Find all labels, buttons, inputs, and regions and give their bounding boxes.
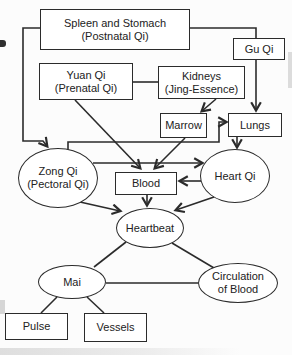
- edge-heartqi-to-heartbeat: [176, 197, 214, 210]
- node-label: (Postnatal Qi): [81, 30, 148, 43]
- node-spleen-stomach: Spleen and Stomach (Postnatal Qi): [40, 9, 190, 50]
- edge-mai-to-pulse: [41, 297, 57, 313]
- node-label: Blood: [132, 177, 160, 190]
- node-label: Kidneys: [182, 70, 221, 83]
- node-yuan-qi: Yuan Qi (Prenatal Qi): [39, 63, 133, 100]
- node-mai: Mai: [38, 265, 106, 299]
- node-zong-qi: Zong Qi (Pectoral Qi): [18, 148, 98, 208]
- node-heartbeat: Heartbeat: [116, 208, 184, 248]
- node-circulation-of-blood: Circulation of Blood: [198, 263, 278, 303]
- node-label: Gu Qi: [245, 43, 274, 56]
- node-lungs: Lungs: [228, 113, 282, 137]
- edge-spleen-to-guqi: [190, 28, 256, 38]
- node-marrow: Marrow: [160, 113, 207, 138]
- node-label: Spleen and Stomach: [64, 17, 166, 30]
- node-label: Zong Qi: [38, 165, 77, 178]
- node-label: of Blood: [218, 283, 258, 296]
- edge-mai-to-vessels: [87, 297, 104, 313]
- node-label: Lungs: [240, 119, 270, 132]
- node-label: (Jing-Essence): [165, 83, 238, 96]
- node-label: Yuan Qi: [66, 69, 105, 82]
- node-label: Heart Qi: [215, 170, 256, 183]
- edge-heartbeat-to-mai: [94, 242, 126, 267]
- scan-artifact: [0, 348, 240, 355]
- node-label: Heartbeat: [126, 222, 174, 235]
- scan-artifact: [0, 300, 5, 314]
- node-pulse: Pulse: [5, 313, 68, 340]
- node-label: Marrow: [165, 119, 202, 132]
- node-label: (Prenatal Qi): [55, 82, 117, 95]
- node-heart-qi: Heart Qi: [200, 149, 270, 203]
- edge-zongqi-to-heartbeat: [80, 202, 120, 211]
- qi-flowchart: Spleen and Stomach (Postnatal Qi) Gu Qi …: [0, 0, 292, 355]
- scan-artifact: [0, 40, 6, 47]
- node-label: Pulse: [23, 320, 51, 333]
- scan-artifact: [288, 52, 292, 88]
- edge-kidneys-to-marrow: [202, 99, 216, 111]
- node-gu-qi: Gu Qi: [233, 38, 285, 60]
- node-label: (Pectoral Qi): [27, 178, 89, 191]
- node-blood: Blood: [115, 172, 177, 195]
- node-label: Circulation: [212, 270, 264, 283]
- node-kidneys: Kidneys (Jing-Essence): [158, 66, 245, 99]
- node-vessels: Vessels: [84, 313, 147, 342]
- node-label: Vessels: [97, 321, 135, 334]
- node-label: Mai: [63, 276, 81, 289]
- edge-heartbeat-to-circulation: [172, 243, 214, 268]
